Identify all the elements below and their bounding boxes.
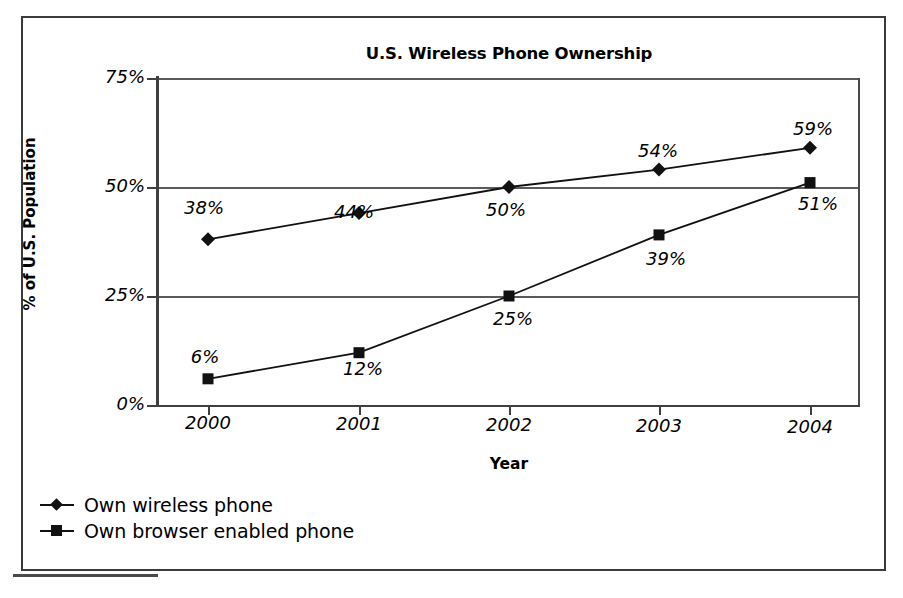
x-tick-label-2004: 2004 xyxy=(787,416,833,437)
legend-label-wireless: Own wireless phone xyxy=(76,494,273,516)
x-axis-title: Year xyxy=(158,455,860,473)
square-marker xyxy=(654,229,665,240)
x-tick-label-2002: 2002 xyxy=(486,414,532,435)
data-label-wireless-2000: 38% xyxy=(184,197,224,218)
chart-page: U.S. Wireless Phone Ownership 75% 50% 25… xyxy=(0,0,903,598)
data-label-wireless-2004: 59% xyxy=(793,118,833,139)
data-label-browser-2003: 39% xyxy=(646,248,686,269)
diamond-marker xyxy=(652,163,666,177)
y-tick-label-0: 0% xyxy=(116,393,145,414)
diamond-marker-icon xyxy=(38,494,76,516)
markers-wireless xyxy=(201,141,817,247)
diamond-marker xyxy=(502,180,516,194)
data-label-browser-2000: 6% xyxy=(191,346,220,367)
x-tick-label-2003: 2003 xyxy=(636,415,682,436)
data-label-wireless-2003: 54% xyxy=(638,140,678,161)
x-axis-line xyxy=(156,405,860,407)
diamond-marker xyxy=(201,232,215,246)
data-label-browser-2002: 25% xyxy=(493,308,533,329)
y-axis-title: % of U.S. Population xyxy=(21,134,39,314)
legend-label-browser: Own browser enabled phone xyxy=(76,520,354,542)
data-label-wireless-2001: 44% xyxy=(334,201,374,222)
legend-item-browser: Own browser enabled phone xyxy=(38,518,354,544)
data-label-wireless-2002: 50% xyxy=(486,199,526,220)
y-tick-75 xyxy=(147,78,157,80)
x-tick-label-2001: 2001 xyxy=(336,413,382,434)
chart-legend: Own wireless phone Own browser enabled p… xyxy=(38,492,354,544)
square-marker xyxy=(504,291,515,302)
data-label-browser-2001: 12% xyxy=(343,358,383,379)
square-marker xyxy=(805,177,816,188)
y-tick-label-75: 75% xyxy=(105,66,145,87)
square-marker-icon xyxy=(38,520,76,542)
diamond-marker xyxy=(803,141,817,155)
y-tick-label-50: 50% xyxy=(105,175,145,196)
y-tick-50 xyxy=(147,187,157,189)
y-tick-label-25: 25% xyxy=(105,284,145,305)
y-tick-0 xyxy=(147,405,157,407)
footer-rule xyxy=(13,574,158,577)
data-label-browser-2004: 51% xyxy=(798,193,838,214)
series-plot xyxy=(158,78,860,405)
x-tick-label-2000: 2000 xyxy=(185,412,231,433)
square-marker xyxy=(354,347,365,358)
square-marker xyxy=(203,373,214,384)
legend-item-wireless: Own wireless phone xyxy=(38,492,354,518)
chart-title: U.S. Wireless Phone Ownership xyxy=(158,44,860,63)
x-axis-tick-labels: 2000 2001 2002 2003 2004 xyxy=(158,412,860,446)
plot-area: 38% 44% 50% 54% 59% 6% 12% 25% 39% 51% xyxy=(158,78,860,405)
y-tick-25 xyxy=(147,296,157,298)
y-axis-tick-labels: 75% 50% 25% 0% xyxy=(60,78,145,405)
